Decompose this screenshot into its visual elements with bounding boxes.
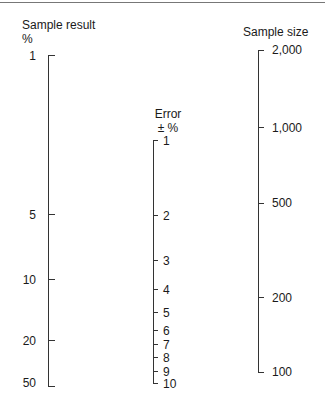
sample-size-label: 100 — [272, 366, 292, 378]
sample-result-axis-line — [48, 55, 49, 387]
error-tick — [153, 289, 158, 290]
error-tick — [153, 260, 158, 261]
error-label: 10 — [163, 378, 176, 390]
sample-size-label: 2,000 — [272, 44, 302, 56]
error-axis-line — [153, 140, 154, 384]
sample-size-tick — [258, 127, 264, 128]
sample-size-label: 1,000 — [272, 122, 302, 134]
error-tick — [153, 312, 158, 313]
sample-result-label: 50 — [6, 377, 36, 389]
sample-result-label: 20 — [6, 335, 36, 347]
right-axis-title-line1: Sample size — [243, 25, 308, 39]
middle-axis-title-line2: ± % — [148, 121, 188, 135]
sample-result-label: 10 — [6, 274, 36, 286]
error-label: 5 — [163, 307, 170, 319]
sample-size-label: 500 — [272, 197, 292, 209]
error-label: 2 — [163, 210, 170, 222]
sample-result-tick — [48, 340, 55, 341]
error-tick — [153, 344, 158, 345]
error-tick — [153, 383, 158, 384]
sample-result-tick — [48, 214, 55, 215]
middle-axis-title-line1: Error — [148, 107, 188, 121]
sample-size-tick — [258, 297, 264, 298]
right-axis-title: Sample size — [243, 25, 308, 39]
error-tick — [153, 215, 158, 216]
error-tick — [153, 330, 158, 331]
left-axis-title: Sample result % — [22, 18, 95, 46]
sample-result-tick — [48, 55, 55, 56]
top-border-rule — [0, 2, 325, 3]
error-tick — [153, 371, 158, 372]
error-tick — [153, 140, 158, 141]
sample-size-axis-line — [258, 50, 259, 373]
sample-size-tick — [258, 372, 264, 373]
left-axis-title-line1: Sample result — [22, 18, 95, 32]
sample-result-tick — [48, 279, 55, 280]
sample-result-label: 1 — [6, 50, 36, 62]
error-label: 3 — [163, 255, 170, 267]
error-label: 4 — [163, 284, 170, 296]
error-label: 8 — [163, 352, 170, 364]
sample-size-tick — [258, 203, 264, 204]
error-label: 1 — [163, 135, 170, 147]
sample-result-tick — [48, 386, 55, 387]
error-label: 6 — [163, 325, 170, 337]
error-tick — [153, 357, 158, 358]
left-axis-title-line2: % — [22, 32, 95, 46]
middle-axis-title: Error ± % — [148, 107, 188, 135]
sample-result-label: 5 — [6, 209, 36, 221]
sample-size-label: 200 — [272, 292, 292, 304]
sample-size-tick — [258, 50, 264, 51]
error-label: 7 — [163, 339, 170, 351]
